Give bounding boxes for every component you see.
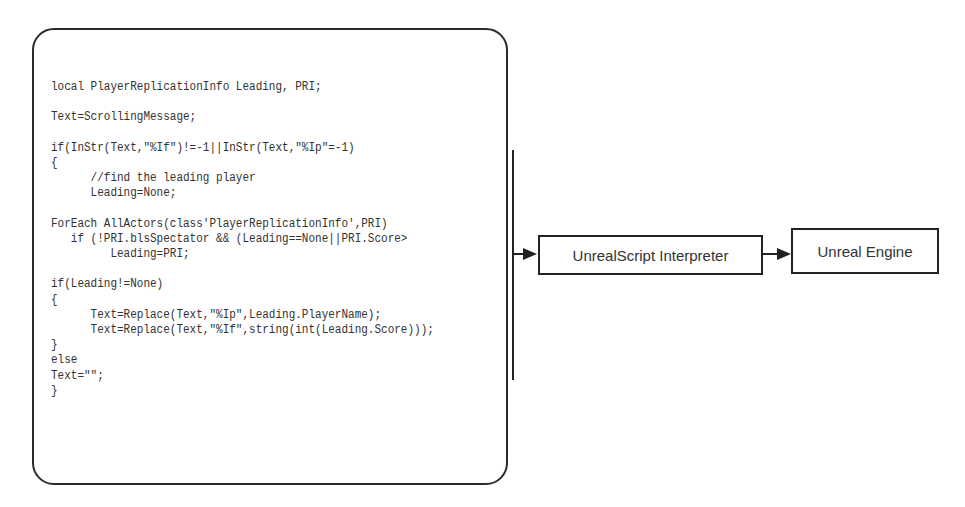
code-line: } [51, 384, 434, 399]
code-line: else [51, 353, 434, 368]
code-line: local PlayerReplicationInfo Leading, PRI… [51, 80, 434, 95]
engine-label: Unreal Engine [817, 243, 912, 260]
code-line: { [51, 156, 434, 171]
code-line: if (!PRI.blsSpectator && (Leading==None|… [51, 232, 434, 247]
vertical-connector-line [512, 150, 514, 380]
interpreter-box: UnrealScript Interpreter [538, 235, 763, 275]
arrow-to-interpreter-icon [523, 248, 537, 260]
code-line: Text=ScrollingMessage; [51, 110, 434, 125]
code-line: //find the leading player [51, 171, 434, 186]
code-line: { [51, 293, 434, 308]
code-line: Leading=None; [51, 186, 434, 201]
code-line [51, 262, 434, 277]
source-code-box: local PlayerReplicationInfo Leading, PRI… [32, 28, 508, 485]
interpreter-label: UnrealScript Interpreter [573, 247, 729, 264]
code-line: if(InStr(Text,"%If")!=-1||InStr(Text,"%I… [51, 141, 434, 156]
code-line: Leading=PRI; [51, 247, 434, 262]
code-line [51, 126, 434, 141]
code-line [51, 95, 434, 110]
code-line: Text=""; [51, 369, 434, 384]
unrealscript-code: local PlayerReplicationInfo Leading, PRI… [51, 80, 434, 399]
code-line: if(Leading!=None) [51, 277, 434, 292]
code-line: ForEach AllActors(class'PlayerReplicatio… [51, 217, 434, 232]
code-line: } [51, 338, 434, 353]
engine-box: Unreal Engine [791, 228, 939, 274]
arrow-to-engine-icon [777, 248, 791, 260]
code-line [51, 202, 434, 217]
code-line: Text=Replace(Text,"%Ip",Leading.PlayerNa… [51, 308, 434, 323]
code-line: Text=Replace(Text,"%If",string(int(Leadi… [51, 323, 434, 338]
